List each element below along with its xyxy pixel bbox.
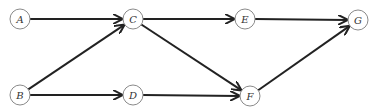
edge-e-to-g-arrow	[255, 19, 347, 20]
node-label: G	[354, 15, 362, 26]
node-label: A	[15, 14, 23, 25]
node-label: E	[240, 14, 249, 25]
node-d: D	[123, 85, 143, 105]
node-a: A	[10, 9, 30, 29]
node-g: G	[348, 10, 368, 30]
node-f: F	[240, 86, 260, 106]
node-label: B	[15, 90, 23, 101]
directed-graph-diagram: ACEGBDF	[0, 0, 377, 109]
node-label: F	[246, 91, 255, 102]
edge-b-to-c-arrow	[28, 25, 124, 89]
node-c: C	[123, 9, 143, 29]
node-b: B	[10, 85, 30, 105]
node-label: C	[129, 14, 137, 25]
edge-c-to-f-arrow	[141, 24, 240, 89]
node-e: E	[235, 9, 255, 29]
edges-group	[28, 19, 349, 96]
node-label: D	[128, 90, 137, 101]
edge-d-to-f-arrow	[143, 95, 239, 96]
nodes-group: ACEGBDF	[10, 9, 368, 106]
edge-f-to-g-arrow	[258, 26, 349, 90]
